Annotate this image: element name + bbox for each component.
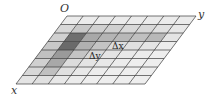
delta-x-label: Δx [112, 41, 124, 51]
grid-diagram: O y x Δx Δy [0, 0, 212, 103]
origin-label: O [60, 2, 69, 15]
delta-y-label: Δy [89, 51, 101, 61]
x-axis-label: x [11, 84, 18, 97]
y-axis-label: y [197, 8, 205, 21]
